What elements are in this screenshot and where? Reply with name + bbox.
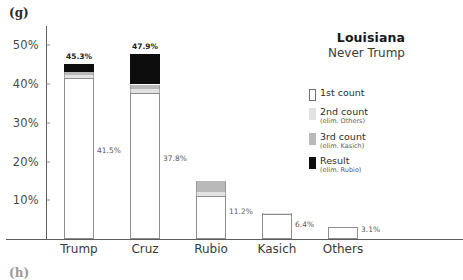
x-axis-label-cruz: Cruz: [131, 242, 158, 256]
bar-top-value-label: 45.3%: [66, 52, 92, 61]
y-axis-tick-label: 30%: [13, 116, 46, 130]
y-axis-tick-label: 50%: [13, 38, 46, 52]
bar-side-value-label: 41.5%: [97, 146, 121, 155]
bar-side-value-label: 6.4%: [295, 220, 314, 229]
chart-legend: 1st count2nd count(elim. Others)3rd coun…: [309, 88, 405, 181]
x-axis-line: [6, 239, 463, 240]
legend-text: 2nd count(elim. Others): [320, 107, 405, 126]
bar-segment-result: [64, 64, 94, 73]
bar-segment-3rd-count: [196, 181, 226, 192]
legend-item-first: 1st count: [309, 88, 405, 101]
legend-item-second: 2nd count(elim. Others): [309, 107, 405, 126]
legend-item-result: Result(elim. Rubio): [309, 156, 405, 175]
y-axis-tick-mark: [46, 84, 50, 85]
bar-segment-2nd-count: [130, 89, 160, 93]
bar-segment-1st-count: [130, 93, 160, 239]
bar-stack: [130, 26, 160, 239]
chart-subtitle: Never Trump: [328, 46, 405, 61]
bar-segment-1st-count: [328, 227, 358, 239]
bar-segment-3rd-count: [130, 85, 160, 89]
panel-letter-g: (g): [9, 6, 29, 20]
chart-title: Louisiana: [328, 30, 405, 46]
legend-swatch-result: [309, 157, 316, 169]
legend-note: (elim. Rubio): [320, 167, 405, 175]
legend-swatch-3rd-count: [309, 133, 316, 145]
bar-group-trump: 45.3%41.5%: [64, 26, 94, 239]
bar-segment-1st-count: [64, 78, 94, 239]
bar-group-cruz: 47.9%37.8%: [130, 26, 160, 239]
bar-side-value-label: 11.2%: [229, 207, 253, 216]
bar-segment-2nd-count: [64, 75, 94, 78]
legend-label: 3rd count: [320, 132, 405, 143]
bar-side-value-label: 3.1%: [361, 225, 380, 234]
y-axis-tick-label: 40%: [13, 77, 46, 91]
y-axis-tick-mark: [46, 45, 50, 46]
bar-segment-2nd-count: [262, 213, 292, 214]
bar-segment-3rd-count: [64, 72, 94, 75]
y-axis-line: [46, 26, 47, 239]
legend-note: (elim. Kasich): [320, 143, 405, 151]
bar-segment-1st-count: [262, 214, 292, 239]
bar-group-kasich: 6.4%: [262, 26, 292, 239]
chart-title-block: Louisiana Never Trump: [328, 30, 405, 61]
bar-segment-result: [130, 54, 160, 85]
x-axis-label-kasich: Kasich: [258, 242, 297, 256]
y-axis-tick-mark: [46, 161, 50, 162]
y-axis-tick-mark: [46, 122, 50, 123]
legend-swatch-2nd-count: [309, 108, 316, 120]
y-axis-tick-mark: [46, 200, 50, 201]
legend-swatch-1st-count: [309, 89, 316, 101]
x-axis-label-others: Others: [323, 242, 363, 256]
x-axis-label-rubio: Rubio: [194, 242, 228, 256]
y-axis-tick-label: 10%: [13, 193, 46, 207]
bar-stack: [262, 26, 292, 239]
legend-text: Result(elim. Rubio): [320, 156, 405, 175]
legend-label: 1st count: [320, 88, 405, 99]
legend-item-third: 3rd count(elim. Kasich): [309, 132, 405, 151]
legend-text: 1st count: [320, 88, 405, 99]
bar-segment-2nd-count: [196, 192, 226, 195]
bar-top-value-label: 47.9%: [132, 42, 158, 51]
bar-group-rubio: 11.2%: [196, 26, 226, 239]
panel-letter-h: (h): [9, 266, 29, 280]
bar-stack: [196, 26, 226, 239]
bar-segment-1st-count: [196, 196, 226, 239]
legend-note: (elim. Others): [320, 118, 405, 126]
legend-text: 3rd count(elim. Kasich): [320, 132, 405, 151]
y-axis-tick-label: 20%: [13, 155, 46, 169]
x-axis-label-trump: Trump: [60, 242, 97, 256]
bar-side-value-label: 37.8%: [163, 154, 187, 163]
